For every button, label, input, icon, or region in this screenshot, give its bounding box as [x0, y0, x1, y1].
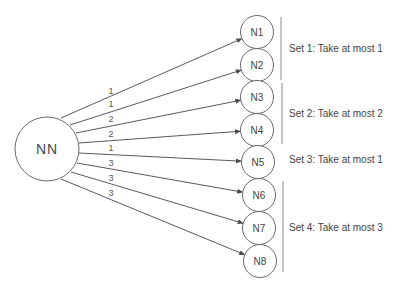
edge-weight-label: 2 [108, 129, 113, 139]
item-node-n6: N6 [243, 179, 276, 212]
set-label: Set 2: Take at most 2 [289, 108, 383, 119]
edge-to-n6: 3 [77, 158, 243, 192]
set-group-1: Set 1: Take at most 1 [281, 17, 383, 80]
set-group-4: Set 4: Take at most 3 [283, 181, 383, 272]
knapsack-set-diagram: 11221333 NN N1N2N3N4N5N6N7N8 Set 1: Take… [0, 0, 394, 289]
item-node-label: N2 [251, 60, 264, 71]
set-group-2: Set 2: Take at most 2 [282, 83, 383, 144]
edge-weight-label: 1 [108, 143, 113, 153]
edge-to-n3: 2 [76, 100, 241, 133]
root-node-label: NN [36, 141, 58, 157]
edge-weight-label: 3 [108, 173, 113, 183]
edge-to-n8: 3 [61, 179, 245, 255]
set-label: Set 1: Take at most 1 [289, 43, 383, 54]
set-group-3: Set 3: Take at most 1 [289, 154, 383, 165]
set-label: Set 4: Take at most 3 [289, 222, 383, 233]
edge-weight-label: 3 [108, 188, 113, 198]
item-node-n3: N3 [241, 81, 274, 114]
edge-weight-label: 2 [108, 114, 113, 124]
item-nodes: N1N2N3N4N5N6N7N8 [241, 16, 277, 278]
arrow-icon [76, 100, 241, 133]
root-node: NN [15, 117, 79, 181]
edge-to-n5: 1 [79, 143, 242, 161]
arrow-icon [77, 163, 243, 192]
set-groups: Set 1: Take at most 1Set 2: Take at most… [281, 17, 383, 272]
arrow-icon [61, 179, 245, 255]
arrow-icon [79, 153, 242, 161]
arrow-icon [71, 172, 243, 223]
item-node-label: N3 [251, 92, 264, 103]
item-node-label: N1 [251, 27, 264, 38]
edge-to-n4: 2 [79, 129, 241, 143]
edge-to-n7: 3 [71, 172, 243, 223]
item-node-label: N5 [252, 157, 265, 168]
set-label: Set 3: Take at most 1 [289, 154, 383, 165]
item-node-label: N4 [251, 125, 264, 136]
edge-weight-label: 1 [108, 99, 113, 109]
item-node-n2: N2 [241, 49, 274, 82]
edge-weight-label: 3 [108, 158, 113, 168]
item-node-n8: N8 [244, 245, 277, 278]
item-node-n1: N1 [241, 16, 274, 49]
edges: 11221333 [61, 39, 245, 255]
item-node-n4: N4 [241, 114, 274, 147]
item-node-label: N7 [253, 223, 266, 234]
arrow-icon [79, 131, 241, 143]
item-node-n5: N5 [242, 146, 275, 179]
item-node-n7: N7 [243, 212, 276, 245]
item-node-label: N6 [253, 190, 266, 201]
edge-weight-label: 1 [108, 86, 113, 96]
item-node-label: N8 [254, 256, 267, 267]
